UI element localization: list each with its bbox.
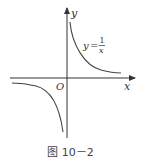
figure-caption: 图 10－2 (0, 143, 141, 159)
function-label-numerator: 1 (100, 36, 105, 45)
y-axis-label: y (70, 7, 78, 20)
x-axis-label: x (124, 80, 131, 93)
function-label: y = 1 x (82, 36, 105, 55)
function-label-equals: = (90, 40, 98, 51)
function-label-lhs: y (82, 40, 89, 51)
origin-label: O (56, 81, 64, 92)
function-label-denominator: x (99, 46, 104, 55)
hyperbola-diagram: y x O y = 1 x (0, 0, 141, 163)
